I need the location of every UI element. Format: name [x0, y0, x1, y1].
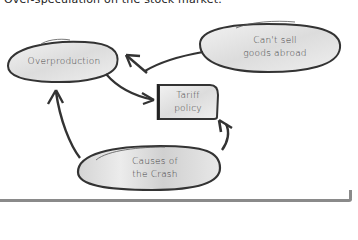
label-causes: Causes of the Crash [110, 155, 200, 181]
label-tariff: Tariff policy [160, 89, 216, 115]
overproduction-text: Overproduction [28, 56, 101, 66]
causes-line2: the Crash [110, 168, 200, 181]
label-cant-sell: Can't sell goods abroad [220, 34, 330, 60]
edge-overproduction-to-tariff [106, 74, 154, 104]
tariff-line2: policy [160, 102, 216, 115]
label-overproduction: Overproduction [14, 55, 114, 68]
edge-causes-to-overproduction [48, 90, 80, 158]
bottom-border [0, 199, 352, 202]
cant-sell-line1: Can't sell [220, 34, 330, 47]
tariff-line1: Tariff [160, 89, 216, 102]
bottom-border-corner [349, 190, 352, 201]
edge-cantsell-to-overproduction [126, 52, 203, 73]
cant-sell-line2: goods abroad [220, 47, 330, 60]
causes-line1: Causes of [110, 155, 200, 168]
edge-causes-to-tariff [219, 120, 232, 150]
